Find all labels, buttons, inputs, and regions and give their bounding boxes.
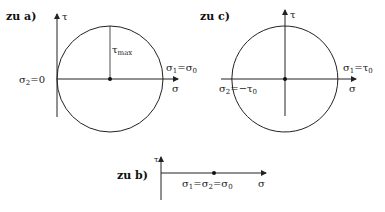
title-a: zu a) bbox=[6, 10, 36, 23]
center-dot-c bbox=[283, 77, 287, 81]
sigma-label-b: σ bbox=[258, 178, 265, 189]
title-b: zu b) bbox=[117, 169, 148, 182]
center-dot-a bbox=[108, 77, 112, 81]
sigma2-label-c: σ2=−τ0 bbox=[219, 83, 257, 96]
mohr-circles-figure: zu a) τ σ τmax σ1=σ0 σ2=0 zu c) τ σ σ1=τ… bbox=[0, 0, 385, 212]
tau-label-c: τ bbox=[290, 9, 296, 20]
diagram-b: zu b) τ σ σ1=σ2=σ0 bbox=[117, 155, 266, 200]
sigma-label-c: σ bbox=[349, 83, 356, 94]
sigma-equal-label-b: σ1=σ2=σ0 bbox=[182, 178, 233, 191]
tau-label-a: τ bbox=[62, 11, 68, 22]
title-c: zu c) bbox=[200, 10, 230, 23]
point-dot-b bbox=[212, 171, 216, 175]
sigma1-label-c: σ1=τ0 bbox=[343, 62, 373, 75]
diagram-a: zu a) τ σ τmax σ1=σ0 σ2=0 bbox=[6, 10, 197, 132]
sigma1-label-a: σ1=σ0 bbox=[166, 62, 197, 75]
sigma2-label-a: σ2=0 bbox=[19, 74, 45, 87]
tau-max-label: τmax bbox=[112, 44, 132, 57]
tau-label-b: τ bbox=[154, 155, 159, 164]
sigma-label-a: σ bbox=[172, 83, 179, 94]
diagram-c: zu c) τ σ σ1=τ0 σ2=−τ0 bbox=[200, 9, 373, 132]
